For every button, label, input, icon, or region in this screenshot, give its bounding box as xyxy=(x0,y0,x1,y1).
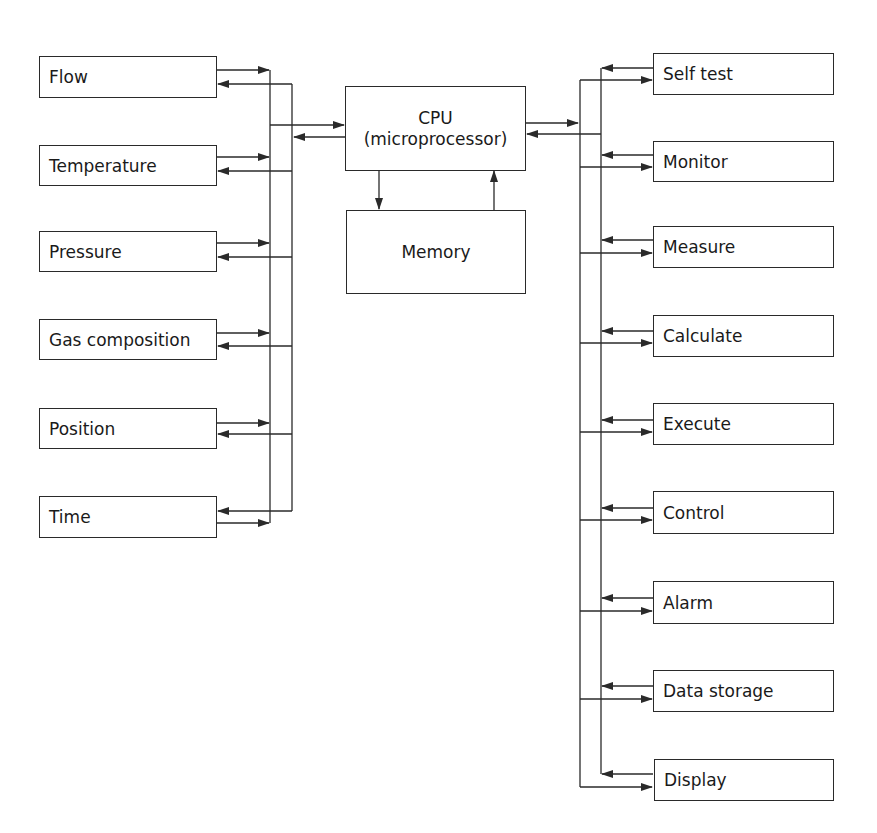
cpu-title: CPU xyxy=(418,108,453,129)
input-label: Position xyxy=(49,419,115,439)
input-box-gas-composition: Gas composition xyxy=(39,319,217,360)
function-label: Display xyxy=(664,770,727,790)
function-box-data-storage: Data storage xyxy=(653,670,834,712)
function-box-monitor: Monitor xyxy=(653,141,834,182)
function-label: Calculate xyxy=(663,326,742,346)
function-label: Control xyxy=(663,503,724,523)
memory-label: Memory xyxy=(401,242,470,263)
function-label: Execute xyxy=(663,414,731,434)
function-label: Monitor xyxy=(663,152,728,172)
input-box-temperature: Temperature xyxy=(39,145,217,186)
function-box-display: Display xyxy=(654,759,834,801)
function-box-alarm: Alarm xyxy=(653,581,834,624)
cpu-box: CPU (microprocessor) xyxy=(345,86,526,171)
input-label: Time xyxy=(49,507,91,527)
function-label: Measure xyxy=(663,237,735,257)
input-box-time: Time xyxy=(39,496,217,538)
function-box-calculate: Calculate xyxy=(653,315,834,357)
function-label: Alarm xyxy=(663,593,713,613)
input-box-position: Position xyxy=(39,408,217,449)
function-label: Data storage xyxy=(663,681,774,701)
function-box-self-test: Self test xyxy=(653,53,834,95)
input-label: Gas composition xyxy=(49,330,191,350)
input-label: Flow xyxy=(49,67,88,87)
cpu-subtitle: (microprocessor) xyxy=(364,129,508,150)
function-label: Self test xyxy=(663,64,733,84)
memory-box: Memory xyxy=(346,210,526,294)
input-box-pressure: Pressure xyxy=(39,231,217,272)
function-box-control: Control xyxy=(653,491,834,534)
diagram-canvas: Flow Temperature Pressure Gas compositio… xyxy=(0,0,877,833)
input-label: Pressure xyxy=(49,242,122,262)
input-label: Temperature xyxy=(49,156,157,176)
function-box-measure: Measure xyxy=(653,226,834,268)
function-box-execute: Execute xyxy=(653,403,834,445)
input-box-flow: Flow xyxy=(39,56,217,98)
